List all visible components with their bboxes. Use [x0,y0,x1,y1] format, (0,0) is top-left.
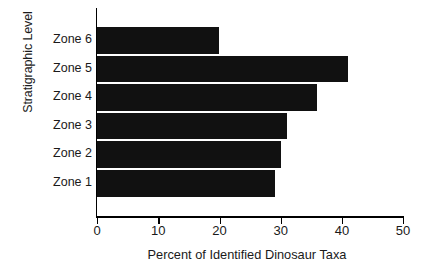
x-axis-tick-label: 10 [138,224,178,238]
y-axis-tick-label: Zone 1 [38,176,92,189]
bar-zone-4 [97,84,317,111]
bar-row [97,113,287,140]
bar-row [97,141,281,168]
y-axis-tick-label: Zone 2 [38,147,92,160]
x-axis-title: Percent of Identified Dinosaur Taxa [60,247,434,262]
bar-zone-3 [97,113,287,140]
x-axis-tick-label: 30 [261,224,301,238]
bar-row [97,27,219,54]
y-axis-tick-labels: Zone 6 Zone 5 Zone 4 Zone 3 Zone 2 Zone … [38,27,92,199]
bar-zone-5 [97,56,348,83]
y-axis-tick-label: Zone 5 [38,62,92,75]
x-axis-ticks: 0 10 20 30 40 50 [96,218,404,242]
bar-zone-2 [97,141,281,168]
bar-row [97,84,317,111]
bar-zone-6 [97,27,219,54]
x-axis-tick-label: 40 [322,224,362,238]
x-axis-tick-label: 0 [77,224,117,238]
x-axis-tick-label: 50 [383,224,423,238]
y-axis-tick-label: Zone 4 [38,90,92,103]
bar-row [97,56,348,83]
y-axis-title: Stratigraphic Level [21,0,35,142]
bar-zone-1 [97,170,274,197]
bar-row [97,170,274,197]
y-axis-tick-label: Zone 3 [38,119,92,132]
x-axis-tick-label: 20 [200,224,240,238]
y-axis-tick-label: Zone 6 [38,33,92,46]
bar-chart: Stratigraphic Level Zone 6 Zone 5 Zone 4… [0,0,434,274]
bar-series [97,27,403,199]
plot-area [96,8,404,218]
